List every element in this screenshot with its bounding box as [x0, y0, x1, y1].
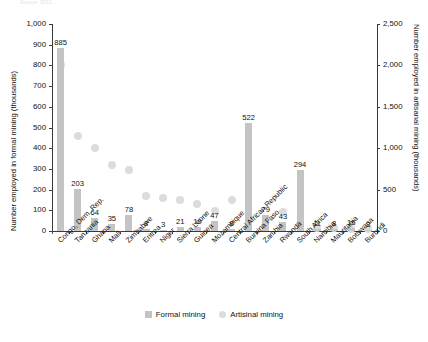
x-axis-category-label: Rwanda	[278, 238, 284, 244]
y-axis-left-tick-label: 300	[33, 164, 46, 173]
y-axis-left-tick-label: 0	[42, 226, 46, 235]
x-axis-category-label: Guinea	[192, 238, 198, 244]
y-axis-right-tick-label: 1,000	[383, 143, 403, 152]
y-axis-left-tick-label: 700	[33, 81, 46, 90]
bar-value-label: 294	[286, 160, 314, 169]
caption-fragment: Source: 2011	[20, 0, 52, 5]
x-axis-category-label: Mauritania	[329, 238, 335, 244]
bar-value-label: 203	[64, 179, 92, 188]
x-axis-category-label: Central African Republic	[226, 238, 232, 244]
y-axis-right-tick	[377, 24, 380, 25]
y-axis-right-tick	[377, 148, 380, 149]
y-axis-left-title: Number employed in formal mining (thousa…	[9, 71, 18, 231]
x-axis-category-label: Eritrea	[141, 238, 147, 244]
x-axis-category-label: Niger	[158, 238, 164, 244]
y-axis-right-title: Number employed in artisanal mining (tho…	[412, 24, 421, 192]
y-axis-right-tick	[377, 190, 380, 191]
y-axis-right-line	[377, 24, 378, 232]
x-axis-category-label: Tanzania	[72, 238, 78, 244]
y-axis-left-tick-label: 500	[33, 123, 46, 132]
x-axis-category-label: Mozambique	[209, 238, 215, 244]
y-axis-left-tick-label: 800	[33, 60, 46, 69]
x-axis-category-label: Namibia	[312, 238, 318, 244]
x-axis-category-label: Burundi	[363, 238, 369, 244]
x-axis-category-label: South Africa	[295, 238, 301, 244]
bar-value-label: 885	[47, 38, 75, 47]
legend-item-formal-mining: Formal mining	[145, 310, 205, 319]
y-axis-right-tick-label: 2,500	[383, 19, 403, 28]
x-axis-category-label: Sierra Leone	[175, 238, 181, 244]
chart-legend: Formal mining Artisinal mining	[0, 310, 428, 319]
x-axis-category-label: Botswana	[346, 238, 352, 244]
legend-label-formal-mining: Formal mining	[156, 310, 205, 319]
y-axis-right-tick	[377, 107, 380, 108]
x-axis-category-label: Zimbabwe	[124, 238, 130, 244]
y-axis-right-tick-label: 500	[383, 185, 396, 194]
bar-value-label: 35	[98, 214, 126, 223]
y-axis-right-tick	[377, 65, 380, 66]
bar-value-label: 522	[235, 113, 263, 122]
legend-item-artisanal-mining: Artisinal mining	[219, 310, 283, 319]
artisanal-mining-swatch-icon	[219, 311, 226, 318]
x-axis-category-label: Zambia	[261, 238, 267, 244]
x-axis-category-label: Mali	[107, 238, 113, 244]
y-axis-left-tick-label: 600	[33, 102, 46, 111]
x-axis-category-label: Ghana	[90, 238, 96, 244]
y-axis-left-tick-label: 200	[33, 185, 46, 194]
x-axis-category-label: Burkina Faso	[244, 238, 250, 244]
y-axis-right-tick-label: 2,000	[383, 60, 403, 69]
bar-value-label: 78	[115, 205, 143, 214]
y-axis-left-tick-label: 400	[33, 143, 46, 152]
legend-label-artisanal-mining: Artisinal mining	[230, 310, 283, 319]
formal-mining-swatch-icon	[145, 311, 152, 318]
x-axis-tick	[52, 231, 53, 234]
y-axis-left-tick-label: 900	[33, 40, 46, 49]
y-axis-right-tick-label: 1,500	[383, 102, 403, 111]
y-axis-left-tick-label: 100	[33, 205, 46, 214]
chart-root: Source: 2011 Number employed in formal m…	[0, 0, 428, 342]
y-axis-left-tick-label: 1,000	[26, 19, 46, 28]
x-axis-category-label: Congo, Dem. Rep.	[55, 238, 61, 244]
